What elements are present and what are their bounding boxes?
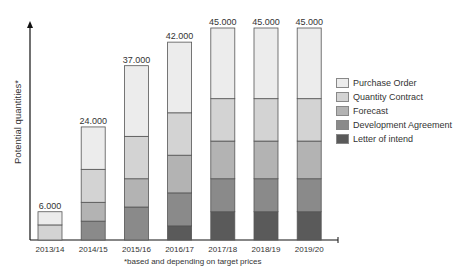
bar-segment-forecast: [211, 141, 235, 179]
bar-segment-quantity-contract: [168, 113, 192, 155]
x-tick-label: 2016/17: [165, 245, 194, 254]
bar-segment-purchase-order: [254, 28, 278, 99]
bar-segment-quantity-contract: [38, 225, 62, 240]
legend-item: Letter of intend: [336, 132, 452, 146]
bar-segment-forecast: [124, 179, 148, 207]
total-label: 37.000: [123, 55, 151, 65]
legend-swatch: [336, 134, 349, 144]
bar-segment-development-agreement: [124, 207, 148, 240]
bar-segment-purchase-order: [81, 127, 105, 169]
bar-segment-quantity-contract: [124, 136, 148, 178]
bar-segment-forecast: [297, 141, 321, 179]
bar-segment-purchase-order: [124, 66, 148, 137]
bar-segment-forecast: [254, 141, 278, 179]
bar-segment-quantity-contract: [297, 99, 321, 141]
legend-swatch: [336, 78, 349, 88]
legend-item: Purchase Order: [336, 76, 452, 90]
bar-segment-letter-of-intend: [254, 212, 278, 240]
legend-swatch: [336, 106, 349, 116]
legend-swatch: [336, 92, 349, 102]
bar-segment-quantity-contract: [211, 99, 235, 141]
x-tick-label: 2013/14: [36, 245, 65, 254]
bar-segment-purchase-order: [168, 42, 192, 113]
bar-segment-development-agreement: [254, 179, 278, 212]
bar-segment-letter-of-intend: [297, 212, 321, 240]
bar-segment-forecast: [168, 155, 192, 193]
legend-label: Development Agreement: [353, 120, 452, 130]
x-tick-label: 2018/19: [252, 245, 281, 254]
bar-segment-development-agreement: [211, 179, 235, 212]
x-tick-label: 2014/15: [79, 245, 108, 254]
total-label: 42.000: [166, 31, 194, 41]
bar-segment-purchase-order: [211, 28, 235, 99]
bar-segment-purchase-order: [297, 28, 321, 99]
legend-item: Quantity Contract: [336, 90, 452, 104]
x-tick-labels: 2013/142014/152015/162016/172017/182018/…: [36, 245, 325, 254]
legend-label: Letter of intend: [353, 134, 413, 144]
bar-segment-letter-of-intend: [168, 226, 192, 240]
bar-segment-development-agreement: [168, 193, 192, 226]
footnote: *based and depending on target prices: [124, 257, 261, 266]
total-label: 45.000: [252, 17, 280, 27]
x-tick-label: 2017/18: [208, 245, 237, 254]
bars: [38, 28, 321, 240]
bar-segment-development-agreement: [297, 179, 321, 212]
legend-item: Forecast: [336, 104, 452, 118]
total-label: 45.000: [209, 17, 237, 27]
bar-segment-development-agreement: [81, 221, 105, 240]
bar-segment-letter-of-intend: [211, 212, 235, 240]
legend-label: Forecast: [353, 106, 388, 116]
total-label: 45.000: [295, 17, 323, 27]
legend-item: Development Agreement: [336, 118, 452, 132]
bar-segment-quantity-contract: [254, 99, 278, 141]
x-tick-label: 2015/16: [122, 245, 151, 254]
total-label: 24.000: [79, 116, 107, 126]
bar-segment-quantity-contract: [81, 169, 105, 202]
y-axis-label: Potential quantities*: [12, 80, 23, 164]
legend-label: Purchase Order: [353, 78, 417, 88]
x-tick-label: 2019/20: [295, 245, 324, 254]
legend-label: Quantity Contract: [353, 92, 423, 102]
legend-swatch: [336, 120, 349, 130]
legend: Purchase OrderQuantity ContractForecastD…: [336, 76, 452, 146]
bar-segment-purchase-order: [38, 212, 62, 225]
y-axis-arrow-icon: [27, 21, 33, 28]
total-label: 6.000: [39, 201, 62, 211]
bar-segment-forecast: [81, 202, 105, 221]
